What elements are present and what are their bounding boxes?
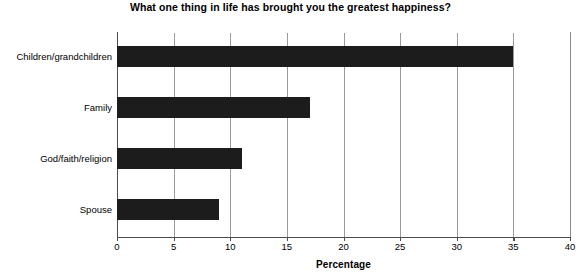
bar-0 bbox=[117, 46, 513, 67]
bar-2 bbox=[117, 148, 242, 169]
category-label-1: Family bbox=[0, 102, 118, 113]
chart-title: What one thing in life has brought you t… bbox=[0, 1, 581, 13]
x-tick-label-20: 20 bbox=[329, 241, 359, 252]
x-tick-label-30: 30 bbox=[442, 241, 472, 252]
x-tick-label-15: 15 bbox=[272, 241, 302, 252]
x-tick-label-25: 25 bbox=[385, 241, 415, 252]
bar-chart: What one thing in life has brought you t… bbox=[0, 0, 581, 279]
gridline-35 bbox=[513, 33, 514, 237]
x-tick-label-35: 35 bbox=[498, 241, 528, 252]
x-tick-label-5: 5 bbox=[159, 241, 189, 252]
bar-3 bbox=[117, 199, 219, 220]
x-tick-label-10: 10 bbox=[215, 241, 245, 252]
category-label-3: Spouse bbox=[0, 204, 118, 215]
x-axis-title: Percentage bbox=[117, 259, 570, 270]
category-label-2: God/faith/religion bbox=[0, 153, 118, 164]
x-tick-label-0: 0 bbox=[102, 241, 132, 252]
x-tick-label-40: 40 bbox=[555, 241, 581, 252]
bar-1 bbox=[117, 97, 310, 118]
category-label-0: Children/grandchildren bbox=[0, 51, 118, 62]
